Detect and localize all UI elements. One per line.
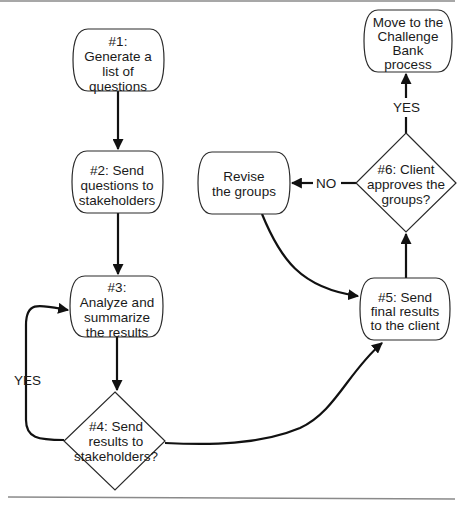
flowchart: #1:Generate alist ofquestions #2: Sendqu…: [0, 0, 469, 508]
node-1-generate-questions: #1:Generate alist ofquestions: [73, 29, 164, 94]
edge-revise-to-5: [262, 214, 358, 296]
svg-text:#5: Sendfinal resultsto the cl: #5: Sendfinal resultsto the client: [370, 290, 439, 333]
decision-4-send-results: #4: Sendresults tostakeholders?: [64, 392, 165, 490]
label-yes-approve: YES: [393, 100, 420, 115]
decision-6-client-approves: #6: Clientapproves thegroups?: [356, 133, 456, 232]
node-2-send-questions: #2: Sendquestions tostakeholders: [72, 151, 163, 213]
node-move-to-challenge-bank: Move to theChallengeBankprocess: [364, 10, 452, 72]
label-yes-loop: YES: [14, 373, 41, 388]
node-revise-groups: Revisethe groups: [198, 152, 290, 214]
edge-4-to-5: [165, 343, 382, 444]
node-3-analyze-results: #3:Analyze andsummarizethe results: [70, 276, 163, 340]
svg-text:#2: Sendquestions tostakeholde: #2: Sendquestions tostakeholders: [79, 163, 156, 208]
label-no-revise: NO: [316, 176, 336, 191]
bottom-rule: [8, 497, 455, 499]
node-5-send-final-results: #5: Sendfinal resultsto the client: [360, 278, 450, 340]
